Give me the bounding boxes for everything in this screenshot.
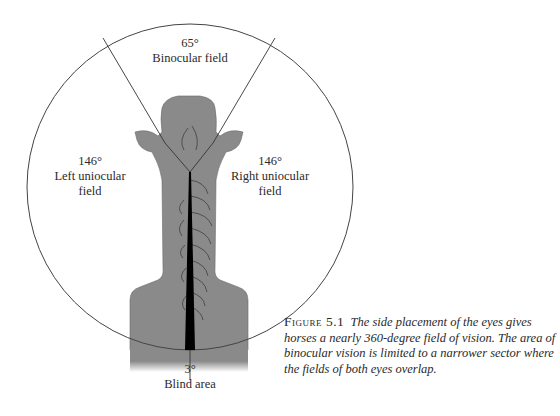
right-text-2: field (215, 184, 325, 199)
figure-caption: Figure 5.1 The side placement of the eye… (284, 314, 556, 377)
right-angle: 146° (215, 154, 325, 169)
binocular-text: Binocular field (130, 51, 250, 66)
binocular-field-label: 65° Binocular field (130, 36, 250, 66)
blind-angle: 3° (140, 362, 240, 377)
left-angle: 146° (40, 154, 140, 169)
binocular-angle: 65° (130, 36, 250, 51)
blind-area-label: 3° Blind area (140, 362, 240, 392)
right-text-1: Right uniocular (215, 169, 325, 184)
right-uniocular-label: 146° Right uniocular field (215, 154, 325, 199)
blind-text: Blind area (140, 377, 240, 392)
left-text-2: field (40, 184, 140, 199)
figure-number: Figure 5.1 (284, 314, 344, 329)
left-uniocular-label: 146° Left uniocular field (40, 154, 140, 199)
left-text-1: Left uniocular (40, 169, 140, 184)
